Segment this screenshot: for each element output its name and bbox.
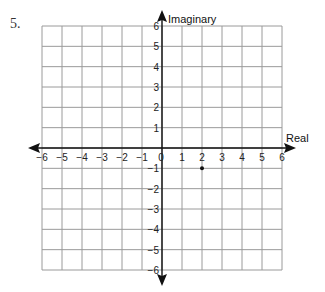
x-tick-label: 0 <box>158 152 164 163</box>
x-tick-label: −1 <box>136 152 148 163</box>
data-point <box>200 166 204 170</box>
x-tick-label: −3 <box>96 152 108 163</box>
x-tick-label: −6 <box>36 152 48 163</box>
x-tick-label: 5 <box>259 152 265 163</box>
y-tick-label: 6 <box>153 21 159 32</box>
x-axis-label: Real <box>286 132 309 144</box>
y-tick-label: 3 <box>153 82 159 93</box>
x-tick-label: 4 <box>239 152 245 163</box>
x-tick-label: 1 <box>179 152 185 163</box>
y-tick-label: −2 <box>148 184 160 195</box>
y-tick-label: 1 <box>153 123 159 134</box>
y-tick-label: 5 <box>153 41 159 52</box>
y-tick-label: 2 <box>153 102 159 113</box>
y-tick-label: −1 <box>148 163 160 174</box>
x-tick-label: 3 <box>219 152 225 163</box>
y-tick-label: −5 <box>148 245 160 256</box>
x-tick-label: −5 <box>56 152 68 163</box>
x-tick-label: 2 <box>199 152 205 163</box>
x-tick-label: −4 <box>76 152 88 163</box>
y-tick-label: −3 <box>148 204 160 215</box>
complex-plane-chart: −6−5−4−3−2−10123456654321−1−2−3−4−5−6Ima… <box>0 0 325 292</box>
y-tick-label: −4 <box>148 224 160 235</box>
y-axis-label: Imaginary <box>168 13 217 25</box>
y-tick-label: 4 <box>153 62 159 73</box>
x-tick-label: 6 <box>279 152 285 163</box>
x-tick-label: −2 <box>116 152 128 163</box>
y-tick-label: −6 <box>148 265 160 276</box>
